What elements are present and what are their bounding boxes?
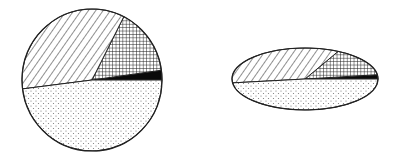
circle-pie-chart: [22, 9, 162, 151]
pie-slice-dots: [233, 79, 378, 110]
ellipse-pie-chart: [232, 48, 378, 110]
pie-charts-canvas: [0, 0, 394, 163]
pie-slice-dots: [23, 80, 162, 151]
